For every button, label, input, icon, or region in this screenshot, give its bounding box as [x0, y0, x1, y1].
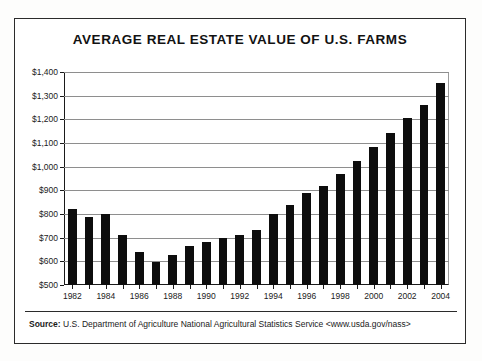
x-axis-tick-mark	[72, 285, 73, 289]
x-axis-tick-mark	[89, 285, 90, 289]
source-divider	[25, 311, 457, 312]
x-axis-tick-mark	[257, 285, 258, 289]
bar	[336, 174, 345, 285]
x-axis-tick-mark	[407, 285, 408, 289]
x-axis-tick-label: 1992	[230, 291, 249, 301]
y-axis-tick-label: $1,200	[32, 114, 58, 124]
source-note: Source: U.S. Department of Agriculture N…	[29, 319, 411, 329]
bar-series	[64, 72, 449, 285]
bar	[353, 161, 362, 285]
x-axis-tick-label: 1994	[264, 291, 283, 301]
x-axis-tick-mark	[323, 285, 324, 289]
bar	[302, 193, 311, 285]
bar	[420, 105, 429, 285]
y-axis-tick-label: $800	[39, 209, 58, 219]
bar	[403, 118, 412, 285]
x-axis-tick-label: 2004	[431, 291, 450, 301]
x-axis-tick-label: 1996	[297, 291, 316, 301]
x-axis-tick-mark	[223, 285, 224, 289]
x-axis-tick-mark	[424, 285, 425, 289]
bar	[152, 262, 161, 285]
chart-card: AVERAGE REAL ESTATE VALUE OF U.S. FARMS …	[14, 18, 466, 344]
x-axis-tick-mark	[240, 285, 241, 289]
bar	[168, 255, 177, 285]
bar	[118, 235, 127, 285]
x-axis-tick-mark	[173, 285, 174, 289]
x-axis-tick-mark	[390, 285, 391, 289]
chart-figure: AVERAGE REAL ESTATE VALUE OF U.S. FARMS …	[0, 0, 482, 361]
y-axis-tick-mark	[60, 285, 64, 286]
y-axis-tick-label: $1,400	[32, 67, 58, 77]
bar	[101, 214, 110, 285]
bar	[219, 238, 228, 285]
x-axis-tick-label: 1998	[331, 291, 350, 301]
y-axis-tick-label: $900	[39, 185, 58, 195]
bar	[436, 83, 445, 285]
y-axis-tick-label: $600	[39, 256, 58, 266]
bar	[185, 246, 194, 285]
bar	[269, 214, 278, 285]
x-axis-tick-mark	[357, 285, 358, 289]
x-axis-tick-mark	[374, 285, 375, 289]
source-label: Source:	[29, 319, 61, 329]
y-axis-tick-label: $1,000	[32, 162, 58, 172]
x-axis-tick-label: 1988	[163, 291, 182, 301]
x-axis-tick-mark	[441, 285, 442, 289]
y-axis-tick-label: $1,100	[32, 138, 58, 148]
x-axis-tick-mark	[106, 285, 107, 289]
x-axis-tick-mark	[340, 285, 341, 289]
y-axis-tick-label: $1,300	[32, 91, 58, 101]
bar	[319, 186, 328, 285]
y-axis-tick-label: $500	[39, 280, 58, 290]
x-axis-tick-mark	[156, 285, 157, 289]
bar	[235, 235, 244, 285]
bar	[252, 230, 261, 285]
chart-title: AVERAGE REAL ESTATE VALUE OF U.S. FARMS	[15, 32, 465, 47]
x-axis-tick-mark	[139, 285, 140, 289]
x-axis-tick-label: 1984	[96, 291, 115, 301]
x-axis-tick-mark	[307, 285, 308, 289]
x-axis-tick-mark	[290, 285, 291, 289]
x-axis-tick-label: 1982	[63, 291, 82, 301]
plot-wrap: $1,400$1,300$1,200$1,100$1,000$900$800$7…	[64, 72, 449, 285]
x-axis-tick-mark	[206, 285, 207, 289]
x-axis-tick-label: 2002	[398, 291, 417, 301]
x-axis-tick-label: 2000	[364, 291, 383, 301]
source-text: U.S. Department of Agriculture National …	[61, 319, 411, 329]
y-axis-tick-label: $700	[39, 233, 58, 243]
bar	[85, 217, 94, 285]
bar	[68, 209, 77, 285]
bar	[369, 147, 378, 285]
bar	[135, 252, 144, 285]
x-axis-tick-mark	[123, 285, 124, 289]
x-axis-tick-label: 1986	[130, 291, 149, 301]
bar	[386, 133, 395, 285]
x-axis-tick-mark	[190, 285, 191, 289]
bar	[286, 205, 295, 285]
x-axis-tick-label: 1990	[197, 291, 216, 301]
bar	[202, 242, 211, 285]
x-axis-tick-mark	[273, 285, 274, 289]
